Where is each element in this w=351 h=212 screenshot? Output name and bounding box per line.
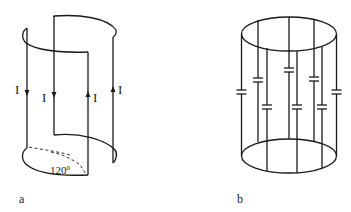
rod-4 [284,17,294,139]
arrow-down-icon [25,90,30,96]
angle-value: 120 [50,164,67,176]
rod-6 [309,20,319,142]
rod-2 [253,20,263,142]
angle-label: 1200 [50,164,71,176]
rod-3 [262,48,272,171]
current-label-left-back: I [42,90,46,105]
current-label-right-back: I [118,82,122,97]
rod-7 [317,47,327,168]
rod-1 [237,34,247,156]
angle-degree-mark: 0 [67,164,71,172]
figure-a-saddle-coil: I I I I 1200 a [15,16,122,206]
caption-a: a [19,192,25,206]
rod-5 [292,51,302,173]
current-label-left-front: I [15,82,19,97]
caption-b: b [237,192,243,206]
arrow-up-icon [111,86,116,92]
arrow-up-icon [86,91,91,97]
front-saddle-top-arc [23,28,88,52]
current-label-right-front: I [93,90,97,105]
angle-dashed-line-1 [29,147,70,155]
diagram-canvas: I I I I 1200 a [0,0,351,212]
back-saddle-bottom-arc [54,134,116,163]
figure-b-birdcage-coil: b [237,17,342,206]
back-saddle-top-arc [54,16,116,37]
arrow-down-icon [52,92,57,98]
rod-8 [332,34,342,156]
